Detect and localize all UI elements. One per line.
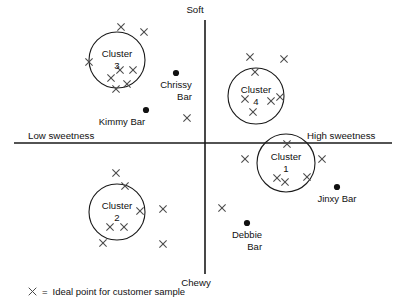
axes	[14, 20, 392, 274]
axis-label-chewy-text: Chewy	[181, 277, 211, 288]
ideal-point-marker	[249, 108, 256, 115]
cluster-4-label-line1: Cluster	[241, 84, 271, 96]
brand-label-line1: Kimmy Bar	[99, 116, 145, 128]
perceptual-map: Soft Chewy Low sweetness High sweetness …	[0, 0, 402, 307]
cluster-1-label: Cluster1	[271, 151, 301, 174]
brand-dot	[244, 220, 250, 226]
legend-equals: =	[42, 286, 48, 297]
axis-label-high-sweetness-text: High sweetness	[307, 130, 375, 141]
legend: = Ideal point for customer sample	[28, 286, 185, 297]
ideal-point-marker	[99, 239, 106, 246]
ideal-point-marker	[218, 204, 225, 211]
brand-dot	[334, 184, 340, 190]
ideal-point-marker	[112, 85, 119, 92]
ideal-point-marker	[140, 28, 147, 35]
brand-label: DebbieBar	[232, 229, 262, 252]
brand-dot	[143, 107, 149, 113]
cluster-3-label-line2: 3	[102, 60, 132, 72]
brand-label: Jinxy Bar	[317, 193, 356, 205]
axis-label-soft: Soft	[186, 4, 203, 15]
brand-label-line2: Bar	[160, 91, 192, 103]
ideal-point-marker	[112, 169, 119, 176]
ideal-point-marker	[117, 23, 124, 30]
cluster-1-label-line2: 1	[271, 163, 301, 175]
cluster-2-label: Cluster2	[102, 200, 132, 223]
brand-label-line1: Jinxy Bar	[317, 193, 356, 205]
axis-label-chewy: Chewy	[181, 277, 211, 288]
ideal-point-marker	[283, 140, 290, 147]
ideal-point-marker	[246, 53, 253, 60]
cluster-3-label-line1: Cluster	[102, 48, 132, 60]
cluster-1-label-line1: Cluster	[271, 151, 301, 163]
ideal-point-marker	[280, 55, 287, 62]
ideal-point-marker	[136, 207, 143, 214]
ideal-point-marker	[106, 223, 113, 230]
axis-label-low-sweetness: Low sweetness	[28, 130, 94, 141]
ideal-point-marker	[281, 178, 288, 185]
ideal-point-marker	[303, 173, 310, 180]
cluster-3-label: Cluster3	[102, 48, 132, 71]
ideal-point-marker	[120, 223, 127, 230]
brand-label: Kimmy Bar	[99, 116, 145, 128]
ideal-point-marker	[107, 74, 114, 81]
cluster-4-label-line2: 4	[241, 96, 271, 108]
cluster-2-label-line2: 2	[102, 212, 132, 224]
ideal-point-marker	[318, 155, 325, 162]
brand-label-line1: Debbie	[232, 229, 262, 241]
cluster-2-label-line1: Cluster	[102, 200, 132, 212]
ideal-point-marker	[273, 174, 280, 181]
brand-label: ChrissyBar	[160, 79, 192, 102]
axis-label-low-sweetness-text: Low sweetness	[28, 130, 94, 141]
brand-dot	[173, 70, 179, 76]
axis-label-soft-text: Soft	[186, 4, 203, 15]
brand-label-line1: Chrissy	[160, 79, 192, 91]
ideal-point-marker	[251, 68, 258, 75]
ideal-point-marker	[183, 114, 190, 121]
legend-x-icon	[28, 287, 37, 296]
axis-label-high-sweetness: High sweetness	[307, 130, 375, 141]
map-canvas	[0, 0, 402, 307]
ideal-point-marker	[276, 93, 283, 100]
brand-label-line2: Bar	[232, 241, 262, 253]
cluster-4-label: Cluster4	[241, 84, 271, 107]
legend-text: Ideal point for customer sample	[53, 286, 186, 297]
ideal-point-marker	[159, 205, 166, 212]
ideal-point-marker	[241, 155, 248, 162]
ideal-point-marker	[159, 240, 166, 247]
